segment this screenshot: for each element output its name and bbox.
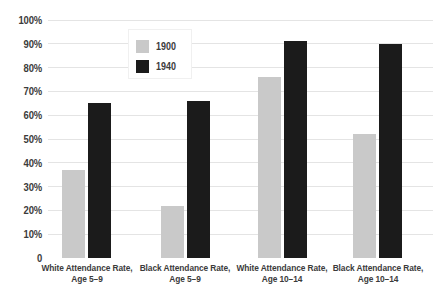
y-tick-label-30: 30% bbox=[4, 181, 42, 193]
legend-label-1900: 1900 bbox=[156, 40, 176, 52]
y-tick-label-80: 80% bbox=[4, 62, 42, 74]
bar-1940-group1 bbox=[88, 103, 111, 258]
legend-item-1900: 1900 bbox=[136, 36, 191, 56]
y-tick-label-70: 70% bbox=[4, 85, 42, 97]
legend-swatch-1900 bbox=[136, 40, 149, 53]
y-tick-label-90: 90% bbox=[4, 38, 42, 50]
bar-1900-group4 bbox=[353, 134, 376, 258]
gridline-100 bbox=[48, 20, 433, 21]
legend-label-1940: 1940 bbox=[156, 60, 176, 72]
y-tick-label-10: 10% bbox=[4, 228, 42, 240]
gridline-70 bbox=[48, 91, 433, 92]
bar-1940-group3 bbox=[284, 41, 307, 258]
bar-1940-group2 bbox=[187, 101, 210, 258]
bar-1940-group4 bbox=[379, 44, 402, 258]
y-tick-label-60: 60% bbox=[4, 109, 42, 121]
category-label-4: Black Attendance Rate,Age 10–14 bbox=[320, 262, 434, 284]
bar-1900-group3 bbox=[258, 77, 281, 258]
bar-1900-group1 bbox=[62, 170, 85, 258]
legend: 1900 1940 bbox=[128, 29, 192, 79]
gridline-90 bbox=[48, 43, 433, 44]
y-tick-label-50: 50% bbox=[4, 133, 42, 145]
y-tick-label-100: 100% bbox=[4, 14, 42, 26]
category-label-1: White Attendance Rate,Age 5–9 bbox=[29, 262, 143, 284]
y-tick-label-20: 20% bbox=[4, 204, 42, 216]
bar-1900-group2 bbox=[161, 206, 184, 258]
legend-item-1940: 1940 bbox=[136, 56, 191, 76]
y-tick-label-40: 40% bbox=[4, 157, 42, 169]
legend-swatch-1940 bbox=[136, 60, 149, 73]
attendance-rate-bar-chart: 100%90%80%70%60%50%40%30%20%10%0 White A… bbox=[0, 0, 435, 299]
gridline-80 bbox=[48, 67, 433, 68]
